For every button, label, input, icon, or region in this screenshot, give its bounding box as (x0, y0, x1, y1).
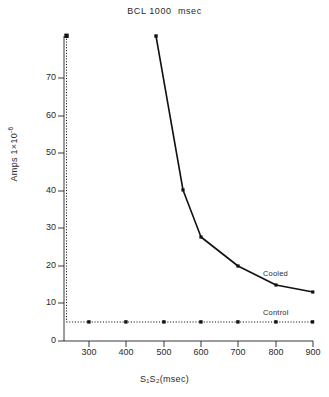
chart-figure: BCL 1000 msec Amps 1×10-6 S₁S₂(msec) 0 1… (0, 0, 329, 397)
y-axis-ticks (58, 78, 64, 341)
control-marker-top (64, 34, 68, 38)
plot-canvas (0, 0, 329, 397)
x-axis-ticks (89, 341, 313, 347)
cooled-line (156, 36, 313, 292)
series-control (64, 34, 314, 324)
series-cooled (154, 34, 314, 293)
